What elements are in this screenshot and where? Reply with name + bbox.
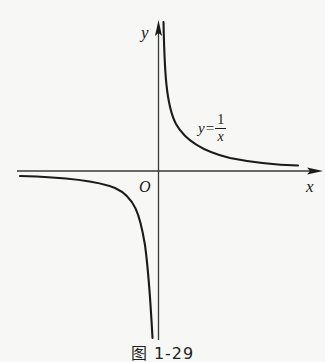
equation-fraction: 1 x xyxy=(215,113,226,144)
x-axis-label: x xyxy=(306,178,314,195)
coordinate-plane xyxy=(0,0,325,362)
y-axis-label: y xyxy=(141,24,149,41)
equation-equals: = xyxy=(206,120,214,137)
origin-label: O xyxy=(139,179,151,195)
equation-lhs: y xyxy=(198,120,205,137)
figure-caption: 图 1-29 xyxy=(0,340,325,362)
fraction-denominator: x xyxy=(218,130,224,144)
function-equation: y = 1 x xyxy=(198,113,226,144)
fraction-numerator: 1 xyxy=(216,113,225,127)
curve-positive-branch xyxy=(164,22,299,166)
curve-negative-branch xyxy=(20,176,153,338)
